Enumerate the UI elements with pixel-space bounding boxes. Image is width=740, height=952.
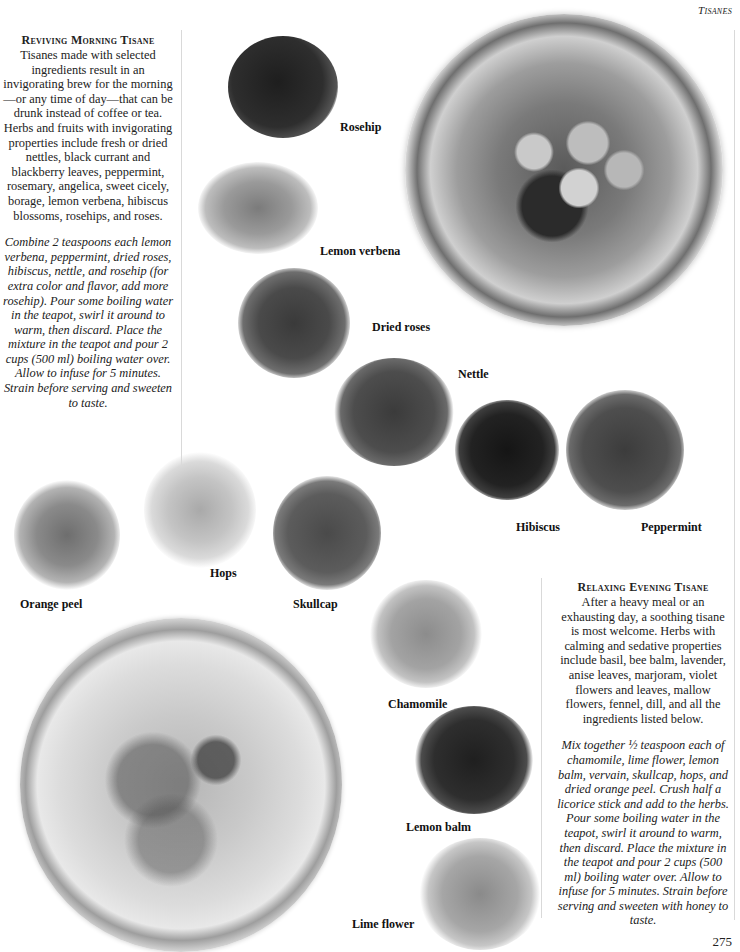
- hops-image: [144, 452, 256, 568]
- rosehip-image: [228, 36, 338, 138]
- dried-roses-image: [238, 268, 350, 378]
- rosehip-label: Rosehip: [340, 120, 381, 135]
- lemon-verbena-label: Lemon verbena: [320, 244, 400, 259]
- lemon-balm-image: [415, 706, 533, 814]
- herb-flakes-in-bowl: [90, 690, 270, 890]
- peppermint-label: Peppermint: [641, 520, 702, 535]
- column-rule-left: [181, 30, 182, 485]
- evening-tisane-recipe: Mix together ½ teaspoon each of chamomil…: [556, 738, 730, 928]
- column-rule-evening: [541, 578, 542, 918]
- column-rule-right: [734, 30, 735, 920]
- lime-flower-label: Lime flower: [352, 917, 414, 932]
- morning-tisane-title: Reviving Morning Tisane: [2, 33, 174, 48]
- running-head: Tisanes: [698, 4, 732, 16]
- morning-tisane-recipe: Combine 2 teaspoons each lemon verbena, …: [2, 235, 174, 410]
- rose-petals-in-bowl: [480, 80, 660, 260]
- morning-tisane-body: Tisanes made with selected ingredients r…: [2, 48, 174, 223]
- chamomile-label: Chamomile: [388, 697, 447, 712]
- peppermint-image: [566, 390, 684, 510]
- skullcap-label: Skullcap: [293, 597, 338, 612]
- hops-label: Hops: [210, 566, 237, 581]
- chamomile-image: [370, 580, 482, 688]
- hibiscus-image: [455, 400, 559, 500]
- lemon-balm-label: Lemon balm: [406, 820, 471, 835]
- dried-roses-label: Dried roses: [372, 320, 430, 335]
- nettle-label: Nettle: [458, 367, 489, 382]
- lemon-verbena-image: [198, 162, 318, 254]
- hibiscus-label: Hibiscus: [516, 520, 560, 535]
- skullcap-image: [273, 476, 381, 590]
- nettle-image: [334, 358, 454, 466]
- orange-peel-label: Orange peel: [20, 597, 82, 612]
- evening-tisane-section: Relaxing Evening Tisane After a heavy me…: [556, 580, 730, 928]
- lime-flower-image: [418, 838, 542, 950]
- morning-tisane-section: Reviving Morning Tisane Tisanes made wit…: [2, 33, 174, 410]
- evening-tisane-title: Relaxing Evening Tisane: [556, 580, 730, 595]
- page-number: 275: [713, 934, 733, 950]
- evening-tisane-body: After a heavy meal or an exhausting day,…: [556, 595, 730, 726]
- orange-peel-image: [14, 480, 120, 590]
